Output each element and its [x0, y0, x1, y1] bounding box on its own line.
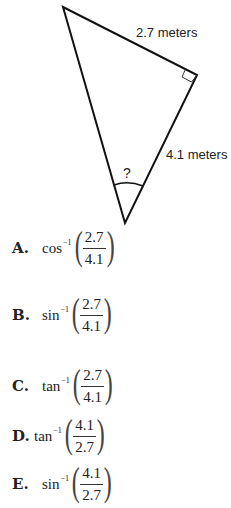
function-name: sin [42, 307, 60, 324]
function-name: cos [42, 240, 62, 257]
denominator: 4.1 [85, 249, 104, 268]
left-paren: ( [73, 364, 81, 404]
triangle-figure: 2.7 meters 4.1 meters ? [0, 0, 231, 232]
right-paren: ) [106, 226, 114, 266]
right-paren: ) [97, 414, 105, 454]
inverse-exponent: −1 [61, 376, 70, 385]
angle-label: ? [123, 165, 131, 181]
numerator: 4.1 [73, 417, 96, 437]
choice-e[interactable]: E. sin−1 ( 4.12.7 ) [12, 462, 114, 506]
function-name: tan [34, 428, 52, 445]
label-2-7-meters: 2.7 meters [136, 25, 198, 40]
denominator: 4.1 [83, 387, 102, 406]
inverse-exponent: −1 [61, 474, 70, 483]
choice-letter: D. [12, 427, 30, 445]
inverse-exponent: −1 [63, 238, 72, 247]
left-paren: ( [72, 293, 80, 333]
numerator: 2.7 [80, 296, 103, 316]
function-name: tan [42, 378, 60, 395]
numerator: 4.1 [80, 465, 103, 485]
inverse-exponent: −1 [53, 426, 62, 435]
right-paren: ) [104, 293, 112, 333]
fraction: 2.74.1 [81, 367, 104, 406]
right-paren: ) [105, 364, 113, 404]
left-paren: ( [74, 226, 82, 266]
left-paren: ( [65, 414, 73, 454]
fraction: 2.74.1 [83, 229, 106, 268]
label-4-1-meters: 4.1 meters [166, 147, 228, 162]
numerator: 2.7 [81, 367, 104, 387]
denominator: 2.7 [75, 437, 94, 456]
inverse-exponent: −1 [61, 305, 70, 314]
choice-a[interactable]: A. cos−1 ( 2.74.1 ) [12, 226, 117, 270]
function-name: sin [42, 476, 60, 493]
choice-c[interactable]: C. tan−1 ( 2.74.1 ) [12, 364, 115, 408]
choice-d[interactable]: D. tan−1 ( 4.12.7 ) [12, 414, 107, 458]
choice-letter: B. [12, 306, 34, 324]
choice-letter: A. [12, 239, 34, 257]
choice-letter: C. [12, 377, 34, 395]
choice-b[interactable]: B. sin−1 ( 2.74.1 ) [12, 293, 114, 337]
fraction: 4.12.7 [73, 417, 96, 456]
numerator: 2.7 [83, 229, 106, 249]
denominator: 4.1 [82, 316, 101, 335]
choice-letter: E. [12, 475, 34, 493]
angle-arc [114, 183, 143, 186]
denominator: 2.7 [82, 485, 101, 504]
right-paren: ) [104, 462, 112, 502]
left-paren: ( [72, 462, 80, 502]
fraction: 2.74.1 [80, 296, 103, 335]
fraction: 4.12.7 [80, 465, 103, 504]
